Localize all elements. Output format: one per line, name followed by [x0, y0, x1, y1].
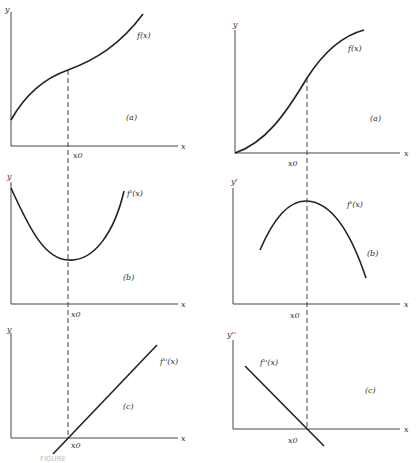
panel-label: (a)	[126, 113, 137, 122]
x0-label: x0	[290, 311, 300, 320]
x-axis-label: x	[404, 149, 409, 158]
curve-label: f'(x)	[346, 200, 363, 209]
left-panel-c: y x f''(x) (c) x0	[6, 325, 186, 454]
y-axis-label: y'	[230, 177, 238, 186]
left-panel-a: y x f(x) (a) x0	[4, 5, 186, 160]
x0-label: x0	[288, 159, 298, 168]
x0-label: x0	[73, 151, 83, 160]
left-panel-b: y x f'(x) (b) x0	[6, 172, 186, 319]
right-panel-c: y'' x f''(x) (c) x0	[226, 330, 409, 446]
curve-label: f''(x)	[259, 358, 278, 367]
y-axis-label: y''	[226, 330, 236, 339]
x0-label: x0	[71, 441, 81, 450]
x-axis-label: x	[181, 142, 186, 151]
panel-label: (b)	[123, 273, 134, 282]
curve-label: f(x)	[136, 31, 151, 40]
y-axis-label: y	[6, 325, 12, 334]
x0-label: x0	[288, 436, 298, 445]
panel-label: (c)	[365, 386, 376, 395]
panel-label: (a)	[370, 114, 381, 123]
inflection-point-diagram: y x f(x) (a) x0 y x f'(x) (b) x0 y x f''…	[0, 0, 419, 463]
right-panel-a: y x f(x) (a) x0	[232, 20, 409, 168]
right-panel-b: y' x f'(x) (b) x0	[230, 177, 409, 320]
x-axis-label: x	[181, 300, 186, 309]
y-axis-label: y	[6, 172, 12, 181]
curve-label: f'(x)	[126, 189, 143, 198]
y-axis-label: y	[232, 20, 238, 29]
x-axis-label: x	[404, 300, 409, 309]
x-axis-label: x	[181, 434, 186, 443]
panel-label: (c)	[123, 402, 134, 411]
curve-label: f(x)	[347, 44, 362, 53]
y-axis-label: y	[4, 5, 10, 14]
x0-label: x0	[71, 310, 81, 319]
curve-label: f''(x)	[159, 357, 178, 366]
panel-label: (b)	[367, 249, 378, 258]
figure-caption: FIGURE	[40, 455, 66, 463]
x-axis-label: x	[404, 425, 409, 434]
